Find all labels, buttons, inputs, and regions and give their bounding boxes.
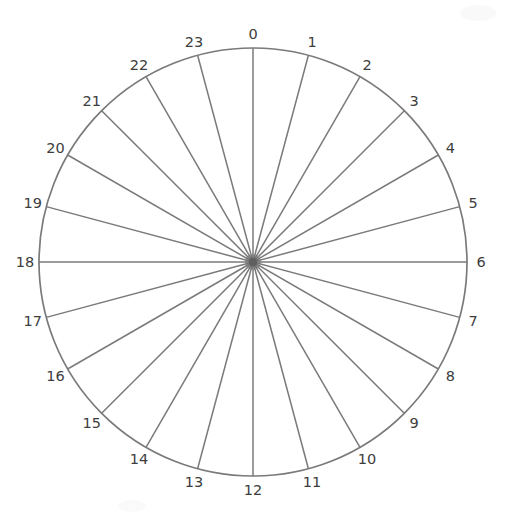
sector-line-11 — [253, 262, 308, 469]
sector-line-2 — [253, 77, 360, 262]
hour-label-14: 14 — [130, 451, 148, 467]
sector-line-1 — [253, 55, 308, 262]
sector-line-10 — [253, 262, 360, 447]
sector-line-22 — [146, 77, 253, 262]
hour-label-16: 16 — [46, 368, 64, 384]
sector-line-7 — [253, 262, 460, 317]
hour-circle-diagram: 01234567891011121314151617181920212223 — [0, 0, 505, 521]
hour-label-1: 1 — [307, 34, 316, 50]
hour-label-17: 17 — [24, 313, 42, 329]
hour-label-20: 20 — [46, 140, 64, 156]
sector-line-15 — [102, 262, 253, 413]
sector-line-17 — [46, 262, 253, 317]
sector-line-9 — [253, 262, 404, 413]
hour-label-21: 21 — [83, 93, 101, 109]
hour-label-5: 5 — [469, 195, 478, 211]
hour-label-11: 11 — [303, 474, 321, 490]
sector-line-5 — [253, 207, 460, 262]
hour-label-3: 3 — [410, 93, 419, 109]
hour-label-22: 22 — [130, 57, 148, 73]
hour-label-15: 15 — [83, 415, 101, 431]
hour-label-18: 18 — [16, 254, 34, 270]
hour-label-7: 7 — [469, 313, 478, 329]
sector-line-16 — [68, 262, 253, 369]
hour-label-9: 9 — [410, 415, 419, 431]
center-dot — [249, 258, 257, 266]
hour-label-13: 13 — [185, 474, 203, 490]
hour-label-19: 19 — [24, 195, 42, 211]
hour-label-12: 12 — [244, 482, 262, 498]
sector-line-23 — [198, 55, 253, 262]
sector-line-4 — [253, 155, 438, 262]
hour-label-2: 2 — [362, 57, 371, 73]
sector-line-21 — [102, 111, 253, 262]
scan-smudge — [460, 5, 496, 21]
hour-label-0: 0 — [248, 26, 257, 42]
scan-smudge — [118, 500, 146, 512]
sector-line-13 — [198, 262, 253, 469]
sector-line-8 — [253, 262, 438, 369]
worksheet-page: 01234567891011121314151617181920212223 — [0, 0, 505, 521]
hour-label-4: 4 — [446, 140, 455, 156]
hour-label-8: 8 — [446, 368, 455, 384]
sector-line-19 — [46, 207, 253, 262]
hour-label-10: 10 — [358, 451, 376, 467]
hour-label-6: 6 — [476, 254, 485, 270]
hour-label-23: 23 — [185, 34, 203, 50]
sector-line-3 — [253, 111, 404, 262]
sector-line-20 — [68, 155, 253, 262]
sector-line-14 — [146, 262, 253, 447]
